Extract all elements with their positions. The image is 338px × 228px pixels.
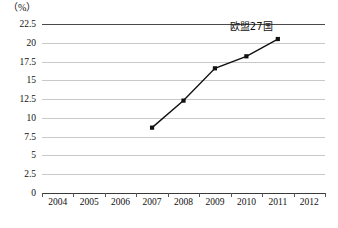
series-data-point bbox=[244, 54, 248, 58]
series-data-point bbox=[276, 37, 280, 41]
series-line bbox=[152, 39, 278, 128]
series-data-point bbox=[213, 66, 217, 70]
series-annotation-label: 欧盟27国 bbox=[230, 21, 273, 33]
chart-container: （%） 02.557.51012.51517.52022.5 200420052… bbox=[0, 0, 338, 228]
series-data-point bbox=[181, 99, 185, 103]
series-layer bbox=[0, 0, 338, 228]
series-data-point bbox=[150, 126, 154, 130]
